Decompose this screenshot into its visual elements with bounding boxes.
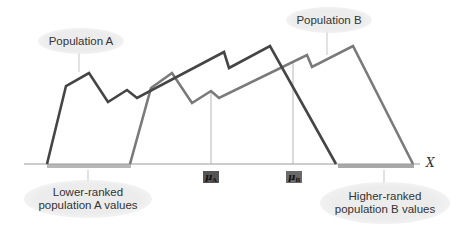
higher-ranked-range-bar xyxy=(338,164,414,168)
mean-b-marker: μB xyxy=(286,171,302,183)
population-b-callout: Population B xyxy=(286,7,372,33)
lower-ranked-label: Lower-ranked population A values xyxy=(38,186,137,212)
population-a-callout: Population A xyxy=(38,28,124,54)
population-b-label: Population B xyxy=(296,14,361,27)
mean-a-marker: μA xyxy=(203,171,219,183)
mu-a-subscript: A xyxy=(212,176,217,183)
population-b-line xyxy=(130,46,413,164)
lower-ranked-range-bar xyxy=(47,164,131,168)
lower-ranked-line2: population A values xyxy=(38,199,137,211)
higher-ranked-line2: population B values xyxy=(335,203,435,215)
higher-ranked-label: Higher-ranked population B values xyxy=(335,190,435,216)
x-axis-label: X xyxy=(426,156,435,170)
lower-ranked-line1: Lower-ranked xyxy=(53,186,123,198)
lower-ranked-callout: Lower-ranked population A values xyxy=(24,180,152,218)
mu-b-subscript: B xyxy=(295,176,300,183)
diagram-canvas: Population A Population B Lower-ranked p… xyxy=(0,0,462,228)
higher-ranked-line1: Higher-ranked xyxy=(349,190,422,202)
population-a-label: Population A xyxy=(49,35,114,48)
higher-ranked-callout: Higher-ranked population B values xyxy=(320,182,450,224)
